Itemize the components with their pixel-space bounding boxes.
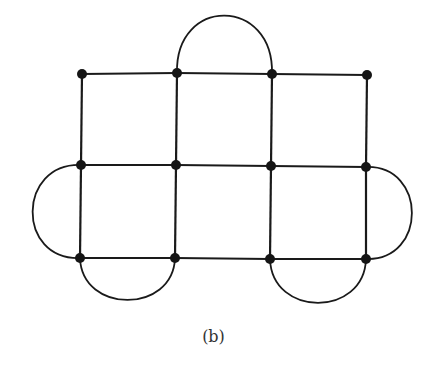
figure-caption: (b) [0,327,427,346]
vertex-r1c4 [362,70,372,80]
curved-edge [80,258,175,300]
curved-edge [366,167,412,259]
curved-edge [177,16,272,74]
curved-edge [33,165,81,258]
grid-edges [80,73,367,259]
vertex-r3c2 [170,253,180,263]
edge [177,73,272,74]
curved-edge [270,259,366,303]
edge [270,166,271,259]
vertex-r1c1 [77,69,87,79]
vertex-r1c2 [172,68,182,78]
edge [271,74,272,166]
edge [176,73,177,165]
edge [176,165,271,166]
edge [175,258,270,259]
vertex-r2c2 [171,160,181,170]
edge [80,165,81,258]
edge [82,73,177,74]
vertex-r1c3 [267,69,277,79]
edge [175,165,176,258]
vertex-r2c3 [266,161,276,171]
vertex-r2c4 [361,162,371,172]
vertex-r2c1 [76,160,86,170]
edge [81,74,82,165]
graph-diagram [0,0,427,367]
vertex-r3c1 [75,253,85,263]
vertex-r3c3 [265,254,275,264]
edge [366,75,367,167]
vertex-r3c4 [361,254,371,264]
edge [272,74,367,75]
edge [271,166,366,167]
